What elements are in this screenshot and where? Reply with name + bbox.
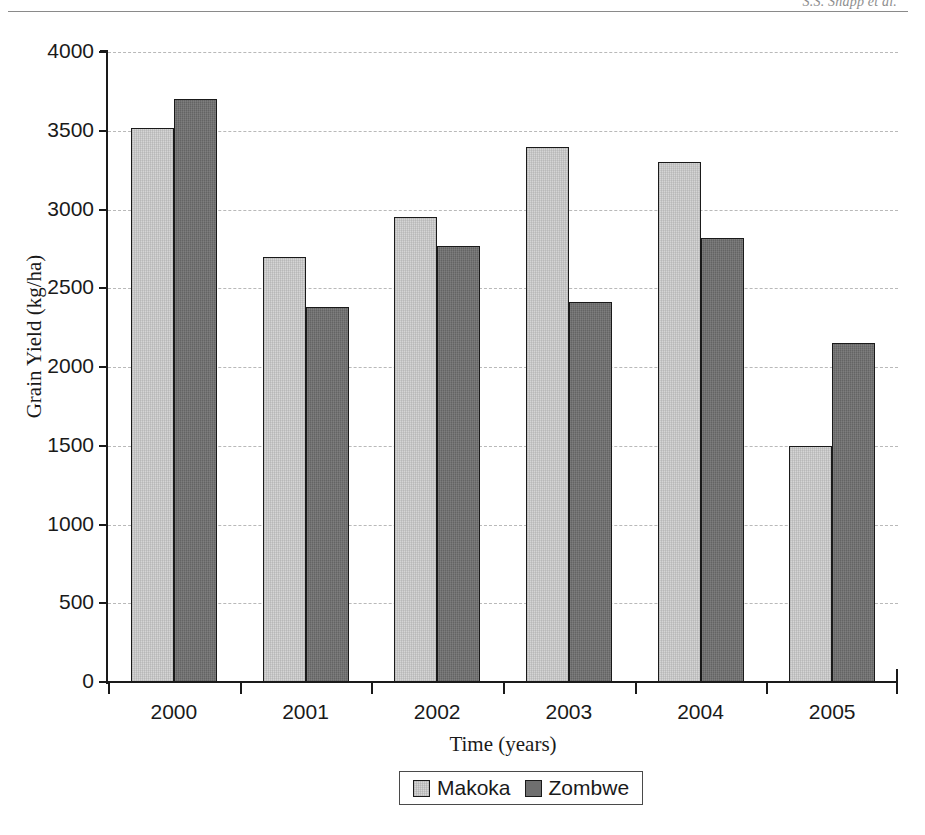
- x-axis-category-label-2004: 2004: [631, 700, 771, 724]
- y-axis-tick: [99, 366, 108, 368]
- x-axis-tick: [108, 683, 110, 694]
- bar-chart-figure: 40003500300025002000150010005000 2000200…: [0, 24, 925, 835]
- gridline: [108, 603, 898, 604]
- header-rule: [8, 11, 908, 12]
- y-axis-tick: [99, 51, 108, 53]
- y-axis-tick-label: 500: [26, 590, 94, 614]
- legend-item-zombwe[interactable]: Zombwe: [525, 776, 630, 800]
- legend-swatch-makoka: [413, 780, 430, 797]
- y-axis-tick: [99, 209, 108, 211]
- plot-area: [108, 52, 898, 682]
- y-axis-tick-label: 1000: [26, 512, 94, 536]
- bar-zombwe-2002: [437, 246, 480, 682]
- gridline: [108, 210, 898, 211]
- gridline: [108, 131, 898, 132]
- y-axis-tick: [99, 602, 108, 604]
- legend-item-makoka[interactable]: Makoka: [413, 776, 511, 800]
- x-axis-tick: [240, 683, 242, 694]
- y-axis-tick-label: 4000: [26, 39, 94, 63]
- running-head: S.S. Snapp et al.: [803, 0, 897, 10]
- x-axis-tick: [503, 683, 505, 694]
- gridline: [108, 446, 898, 447]
- x-axis-category-label-2003: 2003: [499, 700, 639, 724]
- y-axis-tick: [99, 130, 108, 132]
- gridline: [108, 52, 898, 53]
- bar-makoka-2003: [526, 147, 569, 683]
- bar-makoka-2001: [263, 257, 306, 682]
- bar-zombwe-2001: [306, 307, 349, 682]
- x-axis-tick: [371, 683, 373, 694]
- bar-zombwe-2004: [701, 238, 744, 682]
- y-axis-tick-label: 3500: [26, 118, 94, 142]
- x-axis-tick: [635, 683, 637, 694]
- y-axis-tick-label: 0: [26, 669, 94, 693]
- x-axis-line: [106, 681, 898, 683]
- legend-swatch-zombwe: [525, 780, 542, 797]
- gridline: [108, 525, 898, 526]
- bar-makoka-2004: [658, 162, 701, 682]
- bar-makoka-2005: [789, 446, 832, 682]
- x-axis-tick: [896, 683, 898, 694]
- x-axis-category-label-2005: 2005: [762, 700, 902, 724]
- gridline: [108, 288, 898, 289]
- bar-zombwe-2003: [569, 302, 612, 682]
- x-axis-title: Time (years): [108, 732, 898, 757]
- legend-label-makoka: Makoka: [437, 776, 511, 800]
- y-axis-tick: [99, 445, 108, 447]
- y-axis-tick: [99, 287, 108, 289]
- x-axis-category-label-2000: 2000: [104, 700, 244, 724]
- y-axis-tick: [99, 524, 108, 526]
- y-axis-tick: [99, 681, 108, 683]
- x-axis-category-label-2002: 2002: [367, 700, 507, 724]
- bar-makoka-2002: [394, 217, 437, 682]
- x-axis-tick: [766, 683, 768, 694]
- y-axis-title: Grain Yield (kg/ha): [22, 207, 47, 467]
- gridline: [108, 367, 898, 368]
- x-axis-right-cap: [896, 669, 898, 683]
- page-header: S.S. Snapp et al.: [0, 0, 925, 24]
- bar-zombwe-2000: [174, 99, 217, 682]
- bar-zombwe-2005: [832, 343, 875, 682]
- chart-legend: Makoka Zombwe: [399, 771, 643, 805]
- bar-makoka-2000: [131, 128, 174, 682]
- legend-label-zombwe: Zombwe: [549, 776, 630, 800]
- x-axis-category-label-2001: 2001: [236, 700, 376, 724]
